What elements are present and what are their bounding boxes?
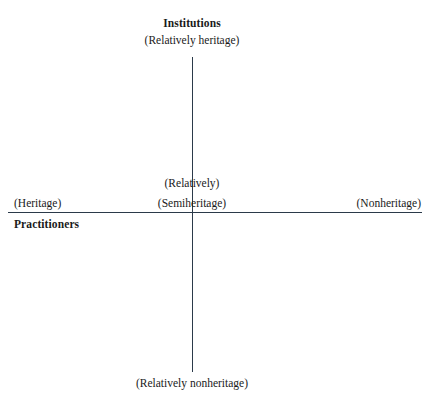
right-axis-subtitle: (Nonheritage) xyxy=(357,196,422,210)
quadrant-diagram: Institutions (Relatively heritage) (Heri… xyxy=(0,0,432,408)
left-axis-title: Practitioners xyxy=(14,217,79,231)
top-axis-subtitle: (Relatively heritage) xyxy=(145,33,240,47)
top-axis-title: Institutions xyxy=(163,16,220,30)
bottom-axis-subtitle: (Relatively nonheritage) xyxy=(136,376,248,390)
vertical-axis xyxy=(192,57,193,372)
center-label-line1: (Relatively) xyxy=(165,176,220,190)
horizontal-axis xyxy=(8,212,422,213)
center-label-line2: (Semiheritage) xyxy=(158,196,226,210)
left-axis-subtitle: (Heritage) xyxy=(14,196,61,210)
